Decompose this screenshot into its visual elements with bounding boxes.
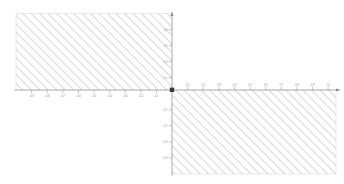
x-axis-tick-label: -0.3 [123, 94, 128, 98]
second-quadrant-region [16, 14, 172, 91]
plot-figure: -0.9-0.8-0.7-0.6-0.5-0.4-0.3-0.2-0.10.10… [0, 0, 344, 184]
y-axis-tick-label: 0.2 [164, 60, 168, 64]
x-axis-tick-label: 0.2 [202, 83, 206, 87]
y-axis-tick-label: -0.4 [163, 156, 168, 160]
x-axis-arrow-icon [336, 88, 340, 91]
x-axis-tick-label: 1.0 [326, 83, 330, 87]
x-axis-tick-label: 0.3 [217, 83, 221, 87]
y-axis-tick-labels: 0.40.30.20.1-0.1-0.2-0.3-0.4 [163, 28, 168, 160]
x-axis-tick-label: -0.7 [61, 94, 66, 98]
plot-canvas: -0.9-0.8-0.7-0.6-0.5-0.4-0.3-0.2-0.10.10… [0, 0, 344, 184]
x-axis-tick-label: -0.5 [92, 94, 97, 98]
y-axis-tick-label: 0.3 [164, 44, 168, 48]
x-axis-tick-label: 0.1 [186, 83, 190, 87]
x-axis-tick-label: -0.4 [107, 94, 112, 98]
x-axis-tick-label: -0.2 [139, 94, 144, 98]
y-axis-tick-label: -0.1 [163, 108, 168, 112]
y-axis-tick-label: -0.2 [163, 124, 168, 128]
x-axis-tick-label: 0.5 [248, 83, 252, 87]
origin-point-marker [170, 88, 174, 92]
y-axis-tick-label: 0.1 [164, 76, 168, 80]
y-axis-tick-label: -0.3 [163, 140, 168, 144]
x-axis-tick-label: 0.7 [280, 83, 284, 87]
x-axis-tick-label: -0.8 [45, 94, 50, 98]
fourth-quadrant-region [172, 90, 336, 174]
x-axis-tick-label: 0.9 [311, 83, 315, 87]
x-axis-tick-label: 0.4 [233, 83, 237, 87]
fourth-quadrant-hatch-fill [172, 90, 336, 174]
x-axis-tick-label: 0.8 [295, 83, 299, 87]
x-axis-tick-label: -0.9 [29, 94, 34, 98]
second-quadrant-hatch-fill [16, 14, 172, 91]
y-axis-tick-label: 0.4 [164, 28, 168, 32]
x-axis-tick-label: -0.6 [76, 94, 81, 98]
x-axis-tick-label: -0.1 [154, 94, 159, 98]
x-axis-tick-label: 0.6 [264, 83, 268, 87]
